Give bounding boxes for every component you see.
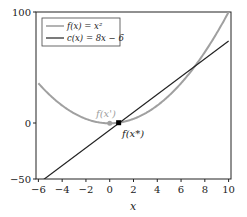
- x-tick-label: 2: [130, 184, 136, 195]
- x-tick-label: −2: [79, 184, 94, 195]
- point-f-x-prime: [107, 121, 112, 126]
- x-axis: −6−4−20246810: [31, 179, 235, 195]
- x-tick-label: 8: [202, 184, 208, 195]
- x-tick-label: 4: [154, 184, 160, 195]
- annotation-f-x-prime: f(x'): [95, 108, 116, 119]
- y-tick-100: 100: [12, 7, 31, 18]
- x-tick-label: −6: [31, 184, 46, 195]
- series-c-line: [32, 41, 228, 188]
- legend-label-c: c(x) = 8x − 6: [67, 33, 124, 43]
- y-tick-0: 0: [25, 118, 31, 129]
- y-tick-neg50: −50: [10, 174, 31, 185]
- x-axis-label: x: [130, 200, 137, 213]
- legend-label-f: f(x) = x²: [66, 21, 103, 31]
- x-tick-label: −4: [55, 184, 70, 195]
- x-tick-label: 6: [178, 184, 184, 195]
- legend: f(x) = x² c(x) = 8x − 6: [42, 18, 124, 46]
- x-tick-label: 0: [107, 184, 113, 195]
- chart-canvas: f(x') f(x*) 100 0 −50 −6−4−20246810 x f(…: [0, 0, 247, 217]
- x-tick-label: 10: [222, 184, 235, 195]
- annotation-f-x-star: f(x*): [121, 128, 144, 139]
- point-f-x-star: [116, 120, 121, 125]
- y-axis: 100 0 −50: [10, 7, 36, 185]
